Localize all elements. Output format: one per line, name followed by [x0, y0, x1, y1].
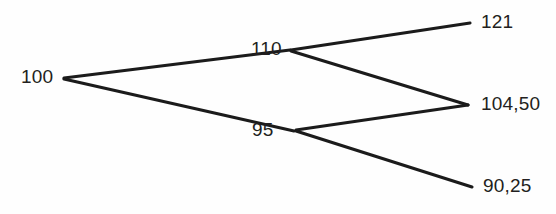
node-label-110: 110 — [251, 39, 282, 58]
node-label-95: 95 — [252, 120, 274, 139]
edge-95-to-104-50 — [296, 105, 468, 130]
edge-95-to-90-25 — [296, 131, 472, 187]
node-label-121: 121 — [481, 12, 513, 31]
edge-110-to-104-50 — [291, 51, 468, 105]
binomial-tree-diagram: 100 110 95 121 104,50 90,25 — [0, 0, 556, 214]
node-label-100: 100 — [21, 67, 53, 86]
node-label-104-50: 104,50 — [481, 94, 540, 113]
tree-edges-svg — [0, 0, 556, 214]
node-label-90-25: 90,25 — [483, 176, 532, 195]
edge-110-to-121 — [291, 23, 470, 50]
